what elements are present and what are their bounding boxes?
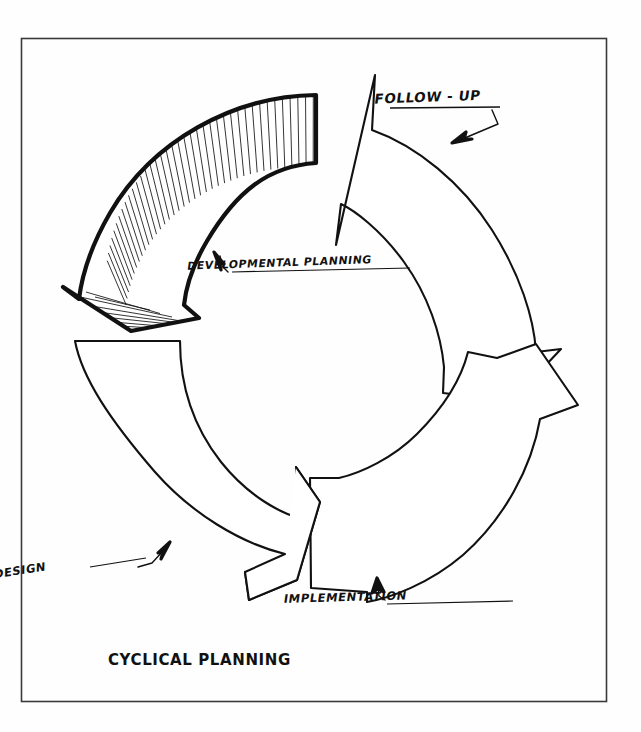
diagram-page: FOLLOW - UP DEVELOPMENTAL PLANNING IMPLE…: [0, 0, 641, 732]
diagram-canvas: FOLLOW - UP DEVELOPMENTAL PLANNING IMPLE…: [0, 0, 641, 732]
page-title: CYCLICAL PLANNING: [108, 651, 291, 669]
